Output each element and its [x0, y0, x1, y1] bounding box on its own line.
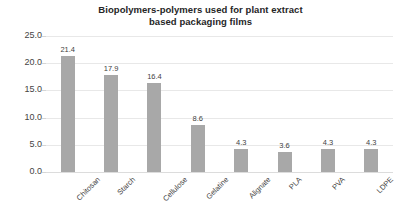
bar[interactable]	[104, 75, 118, 172]
category-slot: PVA	[306, 172, 349, 222]
x-axis-category-labels: ChitosanStarchCelluloseGelatineAlignateP…	[46, 172, 393, 222]
bar-value-label: 3.6	[279, 142, 289, 150]
bar-slot: 16.4	[133, 36, 176, 172]
bar-slot: 4.3	[306, 36, 349, 172]
bar-slot: 17.9	[89, 36, 132, 172]
bar-slot: 3.6	[263, 36, 306, 172]
y-axis-tick-label: 15.0	[2, 85, 42, 94]
bar-slot: 4.3	[350, 36, 393, 172]
y-axis-tick-labels: 0.05.010.015.020.025.0	[0, 36, 42, 172]
category-slot: PLA	[263, 172, 306, 222]
category-slot: LDPE	[350, 172, 393, 222]
category-slot: Cellulose	[133, 172, 176, 222]
bar[interactable]	[364, 149, 378, 172]
bar-value-label: 21.4	[60, 46, 75, 54]
y-axis-tick-label: 5.0	[2, 140, 42, 149]
x-axis-category-label: LDPE	[375, 175, 395, 195]
bar[interactable]	[234, 149, 248, 172]
category-slot: Starch	[89, 172, 132, 222]
chart-title: Biopolymers-polymers used for plant extr…	[0, 4, 401, 27]
bar-slot: 21.4	[46, 36, 89, 172]
category-slot: Alignate	[220, 172, 263, 222]
bar[interactable]	[147, 83, 161, 172]
bar-value-label: 4.3	[323, 139, 333, 147]
y-axis-tick-label: 20.0	[2, 58, 42, 67]
bar[interactable]	[321, 149, 335, 172]
x-axis-category-label: PVA	[330, 175, 347, 192]
bar-chart: Biopolymers-polymers used for plant extr…	[0, 0, 401, 222]
bar-slot: 8.6	[176, 36, 219, 172]
category-slot: Gelatine	[176, 172, 219, 222]
bar-value-label: 17.9	[104, 65, 119, 73]
bar-value-label: 16.4	[147, 73, 162, 81]
bar-value-label: 4.3	[236, 139, 246, 147]
plot-area: 21.417.916.48.64.33.64.34.3	[46, 36, 393, 172]
bar[interactable]	[278, 152, 292, 172]
y-axis-tick-label: 25.0	[2, 31, 42, 40]
bar[interactable]	[191, 125, 205, 172]
bar[interactable]	[61, 56, 75, 172]
y-axis-tick-label: 10.0	[2, 113, 42, 122]
y-axis-tick-label: 0.0	[2, 167, 42, 176]
x-axis-category-label: PLA	[287, 175, 303, 191]
bar-slot: 4.3	[220, 36, 263, 172]
category-slot: Chitosan	[46, 172, 89, 222]
bar-value-label: 4.3	[366, 139, 376, 147]
bar-value-label: 8.6	[193, 115, 203, 123]
